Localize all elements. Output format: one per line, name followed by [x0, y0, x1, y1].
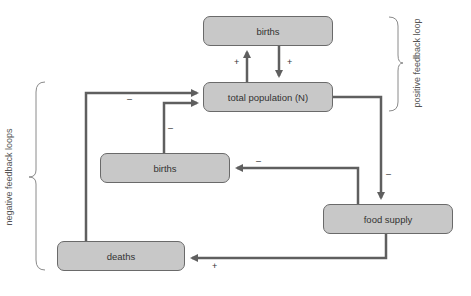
- positive-brace: [389, 17, 403, 111]
- sign-food-to-births: –: [256, 157, 261, 166]
- node-births-top: births: [203, 16, 333, 46]
- node-births-mid: births: [100, 153, 230, 183]
- sign-food-to-deaths: +: [212, 262, 217, 271]
- sign-births-to-pop-neg: –: [168, 124, 173, 133]
- positive-feedback-label: positive feedback loop: [412, 13, 422, 113]
- node-deaths: deaths: [57, 241, 185, 271]
- sign-births-to-pop: +: [287, 58, 292, 67]
- arrow-food-to-deaths: [192, 234, 386, 258]
- sign-pop-to-food: –: [386, 170, 391, 179]
- sign-pop-to-births: +: [234, 58, 239, 67]
- node-food-supply: food supply: [323, 204, 453, 234]
- negative-feedback-label: negative feedback loops: [4, 122, 14, 232]
- sign-deaths-to-pop: –: [127, 95, 132, 104]
- arrow-food-to-births: [237, 168, 358, 204]
- node-total-population: total population (N): [203, 82, 333, 112]
- negative-brace: [29, 82, 45, 270]
